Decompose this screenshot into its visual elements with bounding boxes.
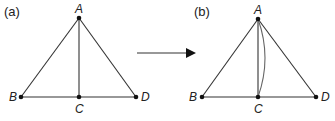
point-c (256, 95, 261, 100)
point-b (200, 95, 205, 100)
panel-b: (b) A B C D (189, 3, 330, 116)
label-a: A (74, 2, 83, 16)
segment-ad (79, 18, 136, 97)
point-c (77, 95, 82, 100)
label-d: D (141, 90, 150, 104)
segment-ab (202, 19, 258, 97)
arc-ac (258, 19, 265, 97)
panel-b-label: (b) (194, 4, 210, 19)
diagram-canvas: (a) A B C D (b) A B C D (0, 0, 335, 121)
point-d (134, 95, 139, 100)
label-c: C (75, 102, 84, 116)
label-b: B (9, 90, 17, 104)
point-a (256, 17, 261, 22)
point-a (77, 16, 82, 21)
label-a: A (253, 3, 262, 17)
label-c: C (254, 102, 263, 116)
segment-ab (21, 18, 79, 97)
label-b: B (189, 90, 197, 104)
diagram: (a) A B C D (b) A B C D (0, 0, 335, 121)
right-arrow-icon (137, 48, 196, 58)
segment-ad (258, 19, 316, 97)
panel-a: (a) A B C D (4, 2, 150, 116)
point-b (19, 95, 24, 100)
panel-a-label: (a) (4, 4, 20, 19)
point-d (314, 95, 319, 100)
label-d: D (321, 90, 330, 104)
